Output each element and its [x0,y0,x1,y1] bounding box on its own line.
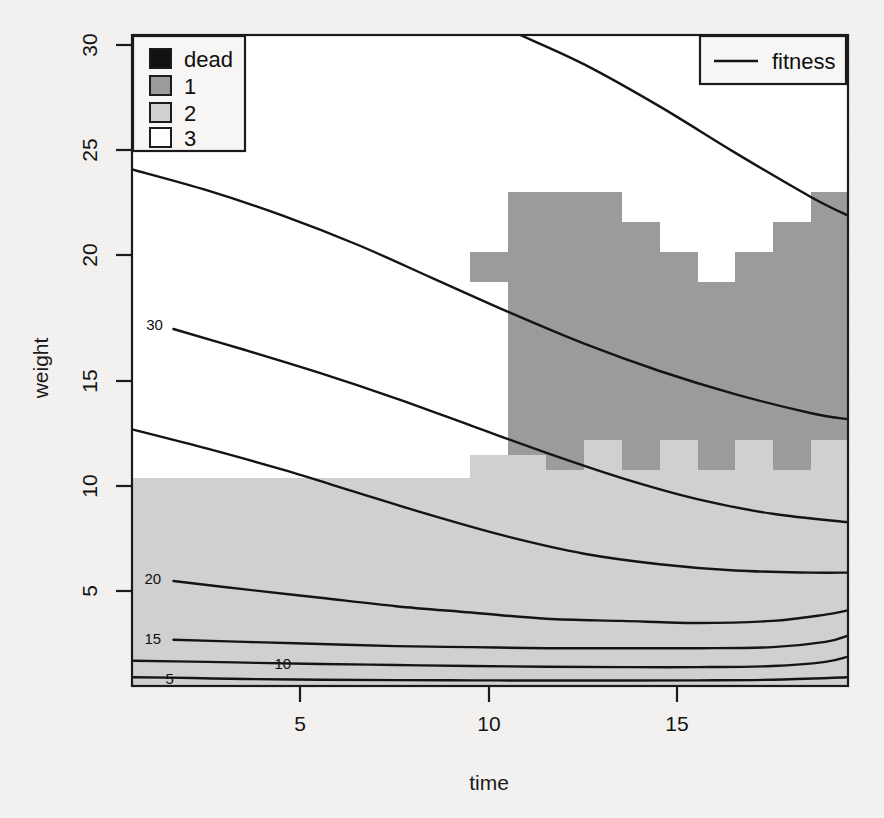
legend-swatch-2[interactable] [150,103,171,122]
contour-label-20: 20 [144,570,161,587]
x-axis: 5 10 15 time [294,686,689,794]
contour-label-5: 5 [166,670,174,687]
contour-label-10: 10 [274,655,291,672]
legend-swatch-dead[interactable] [150,49,171,68]
y-tick-label-25: 25 [78,138,101,161]
legend-label-3: 3 [184,126,196,151]
y-axis-title: weight [29,337,52,399]
y-tick-label-20: 20 [78,243,101,266]
legend-swatch-3[interactable] [150,128,171,147]
contour-figure: 302015105 5 10 15 time 5 10 15 20 25 30 … [0,0,884,818]
legend-label-2: 2 [184,101,196,126]
x-axis-title: time [469,771,509,794]
y-tick-label-30: 30 [78,33,101,56]
x-tick-label-5: 5 [294,712,306,735]
legend-swatch-1[interactable] [150,76,171,95]
legend-label-1: 1 [184,74,196,99]
legend-label-dead: dead [184,47,233,72]
legend-label-fitness: fitness [772,49,836,74]
x-tick-label-15: 15 [665,712,688,735]
region-state-1-tail [508,410,546,455]
region-state-1-tail-c [622,440,660,470]
y-tick-label-5: 5 [78,585,101,597]
contour-label-15: 15 [144,630,161,647]
contour-label-30: 30 [146,316,163,333]
y-tick-label-10: 10 [78,474,101,497]
region-state-1-tail-e [773,440,811,470]
fitness-legend[interactable]: fitness [700,36,846,84]
region-state-1-tail-d [698,440,735,470]
y-axis: 5 10 15 20 25 30 weight [29,33,132,597]
y-tick-label-15: 15 [78,369,101,392]
state-legend[interactable]: dead 1 2 3 [133,36,245,151]
x-tick-label-10: 10 [477,712,500,735]
